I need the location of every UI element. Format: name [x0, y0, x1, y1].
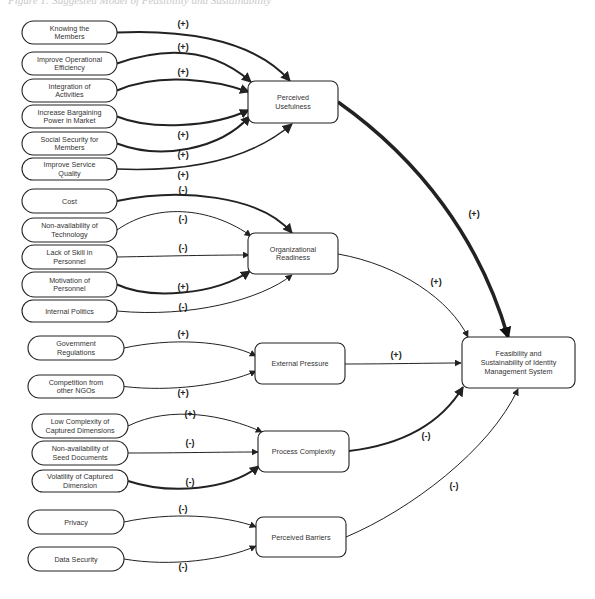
- sign-label: (-): [186, 477, 195, 487]
- sign-label: (-): [179, 504, 188, 514]
- construct-label: Process Complexity: [272, 447, 336, 456]
- edge-pc-to-outcome: [349, 387, 463, 451]
- factor-node: Improve ServiceQuality: [22, 158, 117, 180]
- edge-ep-to-outcome: [345, 363, 461, 364]
- factor-node: Non-availability ofSeed Documents: [32, 441, 128, 465]
- factor-label: Internal Politics: [45, 307, 94, 316]
- factor-label: Regulations: [57, 348, 95, 357]
- sign-label: (+): [177, 388, 188, 398]
- construct-label: Usefulness: [275, 102, 311, 111]
- edge-f4-to-pu: [117, 110, 249, 125]
- factor-node: Internal Politics: [22, 300, 117, 322]
- edge-pu-to-outcome: [338, 102, 508, 337]
- construct-node-pc: Process Complexity: [258, 431, 349, 472]
- factor-label: Activities: [55, 90, 84, 99]
- sign-label: (-): [179, 214, 188, 224]
- sign-label: (+): [177, 329, 188, 339]
- factor-node: GovernmentRegulations: [28, 336, 124, 360]
- edge-f12-to-ep: [124, 342, 256, 356]
- edge-f17-to-pb: [124, 516, 256, 527]
- sign-label: (+): [184, 409, 195, 419]
- factor-label: Captured Dimensions: [45, 426, 115, 435]
- factor-label: Members: [55, 143, 85, 152]
- factor-node: Social Security forMembers: [22, 132, 117, 155]
- sign-label: (+): [177, 170, 188, 180]
- factor-label: other NGOs: [57, 386, 96, 395]
- factor-node: Improve OperationalEfficiency: [22, 52, 117, 75]
- factor-label: Personnel: [53, 284, 86, 293]
- construct-label: External Pressure: [271, 359, 328, 368]
- sign-label: (-): [422, 431, 431, 441]
- sign-label: (+): [177, 42, 188, 52]
- sign-label: (+): [430, 277, 441, 287]
- edge-f18-to-pb: [124, 546, 256, 562]
- factor-label: Dimension: [63, 481, 97, 490]
- factor-label: Data Security: [54, 555, 98, 564]
- factor-label: Personnel: [53, 257, 86, 266]
- factor-node: Privacy: [28, 510, 124, 534]
- factor-label: Members: [55, 32, 85, 41]
- factor-node: Data Security: [28, 547, 124, 571]
- construct-node-ep: External Pressure: [255, 343, 345, 384]
- edge-f11-to-or: [117, 275, 292, 313]
- sign-label: (+): [177, 130, 188, 140]
- construct-node-pu: PerceivedUsefulness: [248, 81, 338, 123]
- construct-node-pb: Perceived Barriers: [256, 517, 346, 557]
- sign-label: (+): [177, 282, 188, 292]
- edge-pb-to-outcome: [346, 389, 518, 537]
- sign-label: (-): [179, 185, 188, 195]
- sign-label: (+): [177, 150, 188, 160]
- factor-label: Technology: [51, 230, 88, 239]
- factor-node: Knowing theMembers: [22, 21, 117, 44]
- edge-f9-to-or: [117, 255, 249, 257]
- edge-f6-to-pu: [117, 124, 292, 169]
- sign-label: (+): [390, 350, 401, 360]
- construct-label: Readiness: [276, 253, 310, 262]
- sign-label: (-): [179, 243, 188, 253]
- factor-node: Volatility of CapturedDimension: [32, 470, 128, 492]
- sign-label: (+): [468, 209, 479, 219]
- factor-node: Integration ofActivities: [22, 79, 117, 102]
- factor-label: Efficiency: [54, 63, 85, 72]
- factor-label: Privacy: [64, 518, 88, 527]
- factor-node: Motivation ofPersonnel: [22, 272, 117, 297]
- sign-label: (-): [179, 302, 188, 312]
- edge-f13-to-ep: [124, 371, 256, 388]
- edge-or-to-outcome: [338, 254, 468, 337]
- factor-node: Lack of Skill inPersonnel: [22, 245, 117, 269]
- factor-label: Power in Market: [44, 116, 96, 125]
- construct-node-or: OrganizationalReadiness: [248, 233, 338, 274]
- factor-label: Seed Documents: [52, 453, 108, 462]
- edge-f15-to-pc: [128, 452, 258, 453]
- sign-label: (+): [177, 19, 188, 29]
- factor-node: Low Complexity ofCaptured Dimensions: [32, 414, 128, 438]
- factor-node: Competition fromother NGOs: [28, 375, 124, 398]
- factor-label: Cost: [62, 197, 77, 206]
- sign-label: (-): [186, 438, 195, 448]
- sign-label: (+): [177, 67, 188, 77]
- construct-label: Management System: [485, 367, 553, 376]
- sign-label: (-): [179, 562, 188, 572]
- structural-model-diagram: Knowing theMembersImprove OperationalEff…: [0, 0, 595, 599]
- factor-label: Quality: [58, 169, 81, 178]
- edge-f7-to-or: [117, 195, 292, 233]
- sign-label: (-): [450, 481, 459, 491]
- edge-f3-to-pu: [117, 80, 249, 92]
- factor-node: Cost: [22, 189, 117, 213]
- factor-node: Increase BargainingPower in Market: [22, 105, 117, 128]
- factor-node: Non-availability ofTechnology: [22, 218, 117, 242]
- construct-node-fs: Feasibility andSustainability of Identit…: [462, 337, 575, 388]
- construct-label: Perceived Barriers: [271, 533, 331, 542]
